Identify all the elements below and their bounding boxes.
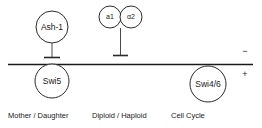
- caption-mother-daughter: Mother / Daughter: [8, 112, 68, 120]
- diagram-canvas: − + Ash-1 a1 α2 Swi5 Swi4/6: [0, 0, 262, 128]
- node-alpha2-label: α2: [127, 13, 135, 20]
- node-ash1-label: Ash-1: [41, 22, 63, 32]
- regulatory-network-diagram: − + Ash-1 a1 α2 Swi5 Swi4/6 Mother / Dau…: [0, 0, 262, 128]
- node-a1-label: a1: [106, 13, 114, 20]
- caption-cell-cycle: Cell Cycle: [171, 112, 205, 120]
- axis-positive-sign: +: [242, 69, 247, 79]
- axis-negative-sign: −: [242, 46, 247, 56]
- node-swi46-label: Swi4/6: [195, 79, 221, 89]
- node-swi5-label: Swi5: [43, 76, 62, 86]
- caption-diploid-haploid: Diploid / Haploid: [92, 112, 147, 120]
